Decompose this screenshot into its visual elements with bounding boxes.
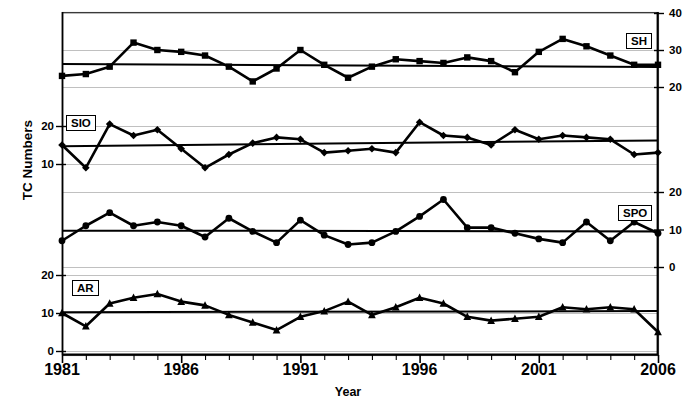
data-point-sh-1987: [202, 52, 208, 58]
y-tick-label: 10: [18, 307, 54, 319]
data-point-sio-2002: [559, 132, 567, 140]
trend-line-sh: [62, 64, 658, 67]
data-point-spo-1981: [59, 237, 66, 244]
data-point-spo-2000: [512, 230, 519, 237]
data-point-spo-2003: [583, 219, 590, 226]
data-point-sio-1998: [463, 134, 471, 142]
data-point-ar-1993: [344, 297, 352, 304]
x-tick-label: 1981: [44, 361, 80, 379]
data-point-sh-2003: [583, 43, 589, 49]
panel-label-sio: SIO: [66, 115, 96, 131]
data-point-spo-2006: [655, 230, 662, 237]
data-point-sh-1989: [250, 78, 256, 84]
data-point-spo-1999: [488, 224, 495, 231]
y-tick-label: 20: [18, 120, 54, 132]
x-tick-label: 1991: [283, 361, 319, 379]
chart-figure: TC Numbers Year 198119861991199620012006…: [0, 0, 696, 405]
data-point-spo-1997: [440, 196, 447, 203]
data-point-sh-1996: [416, 58, 422, 64]
data-point-spo-1983: [106, 209, 113, 216]
data-point-spo-1992: [321, 232, 328, 239]
data-point-sh-1992: [321, 62, 327, 68]
data-point-sh-2005: [631, 62, 637, 68]
data-point-spo-1985: [154, 219, 161, 226]
data-point-sh-1982: [83, 71, 89, 77]
x-tick-label: 2001: [521, 361, 557, 379]
data-point-spo-1991: [297, 217, 304, 224]
data-point-spo-1993: [345, 241, 352, 248]
data-point-sh-1994: [369, 63, 375, 69]
y-tick-label: 10: [669, 224, 696, 236]
trend-line-ar: [62, 311, 658, 312]
data-point-sh-2004: [607, 52, 613, 58]
data-point-sh-2006: [655, 62, 661, 68]
data-point-spo-1989: [249, 228, 256, 235]
data-point-spo-1987: [202, 234, 209, 241]
data-point-spo-1984: [130, 222, 137, 229]
data-point-sh-1995: [393, 56, 399, 62]
data-point-sh-1985: [154, 47, 160, 53]
data-point-sh-1990: [273, 65, 279, 71]
data-point-spo-2004: [607, 237, 614, 244]
data-point-sh-2000: [512, 69, 518, 75]
data-point-spo-1998: [464, 224, 471, 231]
y-tick-label: 20: [669, 186, 696, 198]
y-tick-label: 10: [18, 158, 54, 170]
data-point-sh-2002: [559, 36, 565, 42]
data-point-spo-1996: [416, 213, 423, 220]
data-point-sio-1994: [368, 145, 376, 153]
data-point-sio-1990: [273, 134, 281, 142]
data-point-spo-1988: [225, 215, 232, 222]
trend-line-spo: [62, 231, 658, 232]
x-tick-label: 2006: [640, 361, 676, 379]
data-point-sh-1998: [464, 54, 470, 60]
y-tick-label: 0: [669, 261, 696, 273]
data-point-spo-1986: [178, 222, 185, 229]
data-point-spo-2001: [535, 235, 542, 242]
data-point-sio-2003: [583, 134, 591, 142]
data-point-sh-1997: [440, 60, 446, 66]
series-line-spo: [62, 200, 658, 245]
data-point-sio-2006: [654, 149, 662, 157]
y-tick-label: 20: [669, 81, 696, 93]
series-layer: [58, 36, 662, 336]
data-point-sh-1981: [59, 73, 65, 79]
y-tick-label: 0: [18, 345, 54, 357]
trend-line-sio: [62, 140, 658, 146]
panel-label-ar: AR: [72, 280, 99, 296]
data-point-sh-1983: [106, 63, 112, 69]
series-line-sh: [62, 39, 658, 82]
data-point-sh-1991: [297, 47, 303, 53]
y-tick-label: 20: [18, 269, 54, 281]
data-point-spo-2002: [559, 239, 566, 246]
panel-label-spo: SPO: [618, 205, 652, 221]
data-point-sh-1999: [488, 58, 494, 64]
data-point-spo-1982: [82, 222, 89, 229]
panel-label-sh: SH: [626, 33, 652, 49]
data-point-spo-1995: [392, 228, 399, 235]
y-tick-label: 30: [669, 44, 696, 56]
data-point-sh-1986: [178, 49, 184, 55]
data-point-sh-2001: [536, 49, 542, 55]
data-point-sio-1993: [344, 147, 352, 155]
data-point-spo-1994: [369, 239, 376, 246]
data-point-sh-1984: [130, 39, 136, 45]
data-point-sh-1993: [345, 75, 351, 81]
x-tick-label: 1996: [402, 361, 438, 379]
plot-area: [0, 0, 696, 405]
y-tick-label: 40: [669, 7, 696, 19]
x-tick-label: 1986: [163, 361, 199, 379]
data-point-spo-1990: [273, 239, 280, 246]
data-point-sh-1988: [226, 63, 232, 69]
